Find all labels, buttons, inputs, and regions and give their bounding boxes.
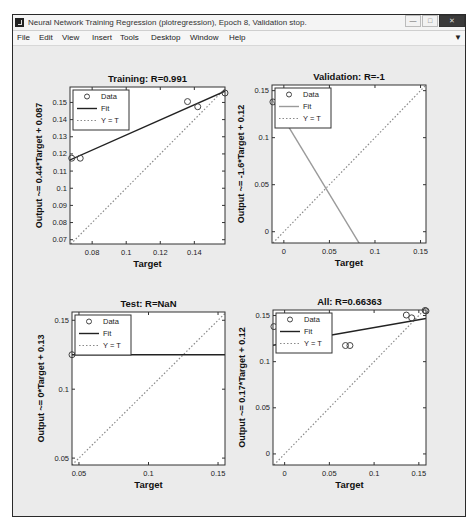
y-tick-label: 0.05 bbox=[255, 403, 270, 412]
plot-title: Test: R=NaN bbox=[120, 298, 176, 309]
matlab-app-icon bbox=[15, 18, 24, 27]
legend[interactable]: DataFitY = T bbox=[75, 315, 131, 355]
y-tick-label: 0.1 bbox=[59, 385, 69, 394]
x-tick-label: 0 bbox=[282, 247, 286, 256]
y-tick-label: 0.08 bbox=[52, 218, 67, 227]
menu-view[interactable]: View bbox=[62, 31, 79, 45]
figure-canvas: 0.080.10.120.140.070.080.090.10.110.120.… bbox=[13, 46, 465, 516]
y-tick-label: 0.09 bbox=[52, 201, 67, 210]
legend-label: Fit bbox=[103, 329, 112, 338]
plot-title: All: R=0.66363 bbox=[317, 296, 382, 307]
y-tick-label: 0.14 bbox=[52, 115, 67, 124]
all-regression-plot: 00.050.10.1500.050.10.15All: R=0.66363Ta… bbox=[237, 296, 429, 490]
x-tick-label: 0.15 bbox=[413, 247, 428, 256]
test-regression-plot: 0.050.10.150.050.10.15Test: R=NaNTargetO… bbox=[36, 298, 225, 490]
legend[interactable]: DataFitY = T bbox=[73, 90, 129, 130]
legend-label: Y = T bbox=[101, 116, 119, 125]
plot-title: Training: R=0.991 bbox=[108, 73, 188, 84]
x-tick-label: 0.15 bbox=[211, 469, 226, 478]
maximize-button[interactable]: □ bbox=[422, 15, 438, 27]
x-tick-label: 0.1 bbox=[143, 469, 153, 478]
toolbar-expand-arrow-icon[interactable]: ▼ bbox=[454, 31, 462, 45]
legend-label: Data bbox=[304, 315, 321, 324]
menu-file[interactable]: File bbox=[17, 31, 30, 45]
y-axis-label: Output ~= 0.17*Target + 0.12 bbox=[237, 327, 247, 448]
y-axis-label: Output ~= -1.6*Target + 0.12 bbox=[236, 105, 246, 224]
y-tick-label: 0.1 bbox=[260, 357, 270, 366]
y-tick-label: 0.05 bbox=[54, 454, 69, 463]
y-tick-label: 0.1 bbox=[259, 133, 269, 142]
legend-label: Fit bbox=[303, 102, 312, 111]
y-tick-label: 0.15 bbox=[52, 98, 67, 107]
x-axis-label: Target bbox=[134, 479, 163, 490]
y-tick-label: 0.11 bbox=[53, 167, 67, 176]
y-tick-label: 0.15 bbox=[54, 316, 69, 325]
close-button[interactable]: ✕ bbox=[439, 15, 465, 27]
y-tick-label: 0.12 bbox=[52, 149, 67, 158]
figure-window: Neural Network Training Regression (plot… bbox=[12, 14, 466, 517]
y-tick-label: 0.15 bbox=[254, 86, 269, 95]
window-title: Neural Network Training Regression (plot… bbox=[28, 15, 307, 30]
legend-label: Y = T bbox=[103, 341, 121, 350]
plot-title: Validation: R=-1 bbox=[313, 71, 385, 82]
title-bar[interactable]: Neural Network Training Regression (plot… bbox=[13, 15, 465, 31]
menu-insert[interactable]: Insert bbox=[92, 31, 112, 45]
legend-label: Y = T bbox=[304, 339, 322, 348]
x-tick-label: 0.1 bbox=[369, 469, 379, 478]
menu-tools[interactable]: Tools bbox=[120, 31, 139, 45]
y-tick-label: 0.13 bbox=[52, 132, 67, 141]
minimize-button[interactable]: — bbox=[405, 15, 421, 27]
y-tick-label: 0.07 bbox=[52, 235, 67, 244]
menu-help[interactable]: Help bbox=[229, 31, 245, 45]
legend-label: Data bbox=[303, 90, 320, 99]
menu-window[interactable]: Window bbox=[190, 31, 218, 45]
x-tick-label: 0.05 bbox=[322, 469, 337, 478]
x-tick-label: 0.1 bbox=[370, 247, 380, 256]
x-tick-label: 0 bbox=[283, 469, 287, 478]
y-axis-label: Output ~= 0.44*Target + 0.087 bbox=[34, 103, 44, 229]
y-axis-label: Output ~= 0*Target + 0.13 bbox=[36, 334, 46, 442]
window-controls: — □ ✕ bbox=[404, 15, 465, 27]
x-axis-label: Target bbox=[335, 257, 364, 268]
x-axis-label: Target bbox=[335, 479, 364, 490]
x-tick-label: 0.05 bbox=[322, 247, 337, 256]
training-regression-plot: 0.080.10.120.140.070.080.090.10.110.120.… bbox=[34, 73, 228, 269]
y-tick-label: 0.1 bbox=[57, 184, 67, 193]
menu-edit[interactable]: Edit bbox=[39, 31, 53, 45]
x-tick-label: 0.14 bbox=[187, 248, 202, 257]
x-tick-label: 0.15 bbox=[412, 469, 427, 478]
legend-label: Fit bbox=[101, 104, 110, 113]
regression-plots: 0.080.10.120.140.070.080.090.10.110.120.… bbox=[13, 46, 465, 516]
x-axis-label: Target bbox=[133, 258, 162, 269]
y-tick-label: 0 bbox=[266, 449, 270, 458]
x-tick-label: 0.08 bbox=[85, 248, 100, 257]
x-tick-label: 0.1 bbox=[121, 248, 131, 257]
menu-desktop[interactable]: Desktop bbox=[151, 31, 180, 45]
y-tick-label: 0.15 bbox=[255, 311, 270, 320]
legend[interactable]: DataFitY = T bbox=[275, 88, 331, 128]
x-tick-label: 0.12 bbox=[153, 248, 168, 257]
legend-label: Data bbox=[101, 92, 118, 101]
menu-bar: File Edit View Insert Tools Desktop Wind… bbox=[13, 31, 465, 46]
legend-label: Y = T bbox=[303, 114, 321, 123]
legend-label: Data bbox=[103, 317, 120, 326]
legend[interactable]: DataFitY = T bbox=[276, 313, 332, 353]
y-tick-label: 0.05 bbox=[254, 180, 269, 189]
y-tick-label: 0 bbox=[265, 227, 269, 236]
legend-label: Fit bbox=[304, 327, 313, 336]
x-tick-label: 0.05 bbox=[72, 469, 87, 478]
